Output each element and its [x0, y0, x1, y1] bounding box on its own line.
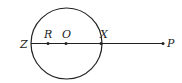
point-p-dot	[162, 42, 165, 45]
point-x-dot	[100, 42, 103, 45]
label-x: X	[99, 28, 109, 41]
label-z: Z	[19, 38, 28, 51]
geometry-diagram: Z R O X P	[0, 0, 182, 83]
point-r-dot	[47, 42, 50, 45]
point-o-dot	[65, 42, 68, 45]
label-r: R	[43, 28, 52, 41]
label-p: P	[166, 37, 175, 50]
label-o: O	[62, 28, 71, 41]
